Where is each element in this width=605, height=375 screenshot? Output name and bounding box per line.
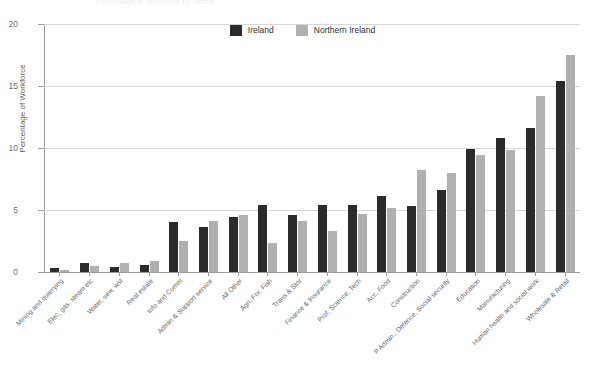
x-label-slot: Human health and social work	[521, 277, 551, 375]
bar-northern	[536, 96, 545, 272]
x-label-slot: P Admin., Defence, Social security	[431, 277, 461, 375]
bar-northern	[417, 170, 426, 272]
bar-group	[45, 24, 75, 272]
bar-northern	[476, 155, 485, 272]
x-tick-mark	[253, 272, 283, 276]
x-tick-mark	[283, 272, 313, 276]
y-tick-label: 10	[0, 143, 18, 153]
bar-ireland	[229, 217, 238, 272]
x-tick-mark	[491, 272, 521, 276]
y-tick-mark	[38, 86, 44, 87]
bar-ireland	[526, 128, 535, 272]
x-tick-mark	[164, 272, 194, 276]
bar-ireland	[169, 222, 178, 272]
bar-northern	[209, 221, 218, 272]
bar-northern	[268, 243, 277, 272]
x-tick-mark	[312, 272, 342, 276]
y-tick-label: 20	[0, 19, 18, 29]
x-axis-label: All Other	[219, 277, 243, 301]
bar-chart: Percentage of Workforce by Sector Irelan…	[0, 0, 605, 375]
y-tick-label: 0	[0, 267, 18, 277]
bar-group	[134, 24, 164, 272]
x-tick-mark	[372, 272, 402, 276]
bar-group	[312, 24, 342, 272]
bar-northern	[120, 263, 129, 272]
bar-ireland	[258, 205, 267, 272]
x-label-slot: All Other	[223, 277, 253, 375]
bar-group	[521, 24, 551, 272]
x-label-slot: Agri, For, Fish	[253, 277, 283, 375]
bar-group	[253, 24, 283, 272]
bar-northern	[506, 150, 515, 272]
bar-group	[194, 24, 224, 272]
x-tick-mark	[45, 272, 75, 276]
bar-ireland	[407, 206, 416, 272]
bar-group	[461, 24, 491, 272]
x-tick-mark	[134, 272, 164, 276]
bar-ireland	[318, 205, 327, 272]
bar-ireland	[466, 149, 475, 272]
bar-northern	[179, 241, 188, 272]
x-label-slot: Prof, Science, Tech	[342, 277, 372, 375]
bar-ireland	[556, 81, 565, 272]
bar-ireland	[140, 265, 149, 272]
x-label-slot: Finance & Insurance	[312, 277, 342, 375]
bar-northern	[358, 214, 367, 272]
bar-group	[75, 24, 105, 272]
bar-northern	[447, 173, 456, 272]
chart-title: Percentage of Workforce by Sector	[96, 0, 215, 5]
bar-group	[223, 24, 253, 272]
x-tick-mark	[223, 272, 253, 276]
bar-northern	[328, 231, 337, 272]
bar-group	[164, 24, 194, 272]
bar-northern	[239, 215, 248, 272]
x-tick-mark	[75, 272, 105, 276]
bar-northern	[298, 221, 307, 272]
bar-northern	[150, 261, 159, 272]
x-axis-ticks	[45, 272, 580, 276]
bar-northern	[387, 208, 396, 272]
x-tick-mark	[521, 272, 551, 276]
x-axis-labels: Mining and quarryingElec, gas, steam etc…	[45, 277, 580, 375]
x-label-slot: Water, sew, wst	[104, 277, 134, 375]
x-label-slot: Elec, gas, steam etc	[75, 277, 105, 375]
bar-group	[372, 24, 402, 272]
x-tick-mark	[342, 272, 372, 276]
bar-group	[402, 24, 432, 272]
bar-ireland	[80, 263, 89, 272]
bar-group	[431, 24, 461, 272]
y-tick-label: 5	[0, 205, 18, 215]
bar-ireland	[437, 190, 446, 272]
bar-group	[550, 24, 580, 272]
x-tick-mark	[104, 272, 134, 276]
x-axis-label: Mining and quarrying	[15, 277, 65, 327]
x-tick-mark	[402, 272, 432, 276]
bar-ireland	[348, 205, 357, 272]
y-axis-title: Percentage of Workforce	[18, 9, 27, 209]
x-tick-mark	[431, 272, 461, 276]
x-label-slot: Admin & Support service	[194, 277, 224, 375]
y-tick-mark	[38, 24, 44, 25]
bar-ireland	[199, 227, 208, 272]
y-tick-mark	[38, 210, 44, 211]
bar-ireland	[496, 138, 505, 272]
x-tick-mark	[461, 272, 491, 276]
x-tick-mark	[550, 272, 580, 276]
x-label-slot: Mining and quarrying	[45, 277, 75, 375]
bar-group	[491, 24, 521, 272]
bar-northern	[566, 55, 575, 272]
bar-ireland	[377, 196, 386, 272]
bar-ireland	[288, 215, 297, 272]
bar-group	[104, 24, 134, 272]
y-tick-mark	[38, 148, 44, 149]
bar-group	[283, 24, 313, 272]
bar-group	[342, 24, 372, 272]
x-label-slot: Wholesale & Retail	[550, 277, 580, 375]
bars-container	[45, 24, 580, 272]
y-tick-label: 15	[0, 81, 18, 91]
